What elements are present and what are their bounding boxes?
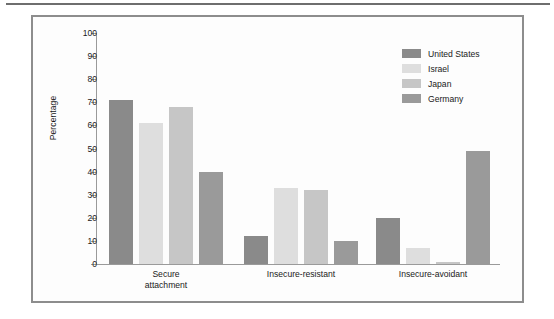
bar	[466, 151, 490, 264]
y-axis-tick-label: 0	[45, 260, 97, 269]
bar	[139, 123, 163, 264]
legend-swatch	[402, 49, 421, 58]
bar	[199, 172, 223, 264]
legend-item: United States	[402, 47, 522, 60]
bar	[406, 248, 430, 264]
y-axis-tick-label: 100	[45, 29, 97, 38]
x-axis-line	[96, 264, 500, 265]
x-axis-category-label: Insecure-avoidant	[373, 269, 493, 280]
chart-figure-box: 0102030405060708090100 Percentage Secure…	[31, 15, 524, 303]
legend-item: Japan	[402, 77, 522, 90]
legend-swatch	[402, 94, 421, 103]
bar	[304, 190, 328, 264]
y-axis-tick-label: 10	[45, 237, 97, 246]
top-divider-rule	[6, 3, 550, 5]
legend-label: Germany	[428, 94, 463, 104]
legend-label: Israel	[428, 64, 449, 74]
bar	[436, 262, 460, 264]
legend-label: United States	[428, 49, 480, 59]
x-axis-category-line: Insecure-avoidant	[373, 269, 493, 280]
bar	[169, 107, 193, 264]
legend-item: Germany	[402, 92, 522, 105]
x-axis-category-label: Secureattachment	[106, 269, 226, 291]
bar-group	[109, 33, 231, 264]
x-axis-category-line: attachment	[106, 280, 226, 291]
bar-group	[244, 33, 366, 264]
legend-swatch	[402, 79, 421, 88]
legend-label: Japan	[428, 79, 451, 89]
bar	[334, 241, 358, 264]
chart-plot-wrapper: 0102030405060708090100 Percentage Secure…	[33, 17, 522, 301]
y-axis-tick-label: 30	[45, 191, 97, 200]
bar	[109, 100, 133, 264]
y-axis-title: Percentage	[48, 58, 58, 178]
bar	[274, 188, 298, 264]
figure-page: 0102030405060708090100 Percentage Secure…	[0, 0, 554, 319]
legend-swatch	[402, 64, 421, 73]
chart-legend: United StatesIsraelJapanGermany	[402, 47, 522, 107]
x-axis-category-line: Secure	[106, 269, 226, 280]
y-axis-tick-label: 20	[45, 214, 97, 223]
bar	[376, 218, 400, 264]
bar	[244, 236, 268, 264]
legend-item: Israel	[402, 62, 522, 75]
x-axis-category-label: Insecure-resistant	[241, 269, 361, 280]
x-axis-category-line: Insecure-resistant	[241, 269, 361, 280]
